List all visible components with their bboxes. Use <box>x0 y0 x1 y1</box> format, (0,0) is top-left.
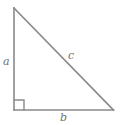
side-label-b: b <box>60 112 67 123</box>
triangle-drawing <box>0 0 120 125</box>
triangle-side-c <box>14 8 114 110</box>
right-angle-marker-icon <box>14 100 24 110</box>
side-label-c: c <box>68 50 74 61</box>
right-triangle-figure: a c b <box>0 0 120 125</box>
side-label-a: a <box>3 56 10 67</box>
